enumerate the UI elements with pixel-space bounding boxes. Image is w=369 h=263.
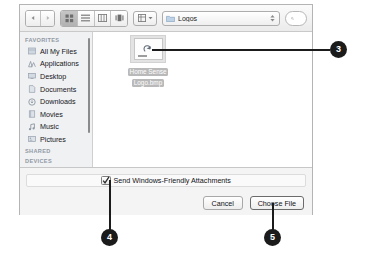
sidebar-item-label: Pictures [40,135,66,144]
checkbox-label: Send Windows-Friendly Attachments [114,176,231,185]
coverflow-view-icon[interactable] [111,11,127,26]
applications-icon [28,60,36,68]
sidebar-item-label: Documents [40,85,76,94]
sidebar-group-header-devices: DEVICES [20,156,92,166]
sidebar-item-label: All My Files [40,47,77,56]
documents-icon [28,85,36,93]
search-input[interactable] [297,15,301,22]
file-name-line-2: Logo.bmp [132,79,164,87]
sidebar-item-pictures[interactable]: Pictures [20,133,92,146]
file-item[interactable]: Home Sense Logo.bmp [122,35,174,87]
file-name-label[interactable]: Home Sense Logo.bmp [128,65,169,87]
file-list-area[interactable]: Home Sense Logo.bmp [93,32,312,167]
desktop-icon [28,72,36,80]
sidebar-item-music[interactable]: Music [20,121,92,134]
sidebar-item-label: Desktop [40,72,66,81]
sidebar-group-header-favorites: FAVORITES [20,35,92,45]
grid-icon [138,14,146,22]
chevron-down-icon [148,16,153,20]
downloads-icon [28,98,36,106]
column-view-icon[interactable] [95,11,112,26]
windows-friendly-option-row[interactable]: Send Windows-Friendly Attachments [26,174,306,187]
sidebar-item-documents[interactable]: Documents [20,83,92,96]
sidebar-item-downloads[interactable]: Downloads [20,95,92,108]
path-label: Logos [178,15,267,22]
file-chooser-dialog: Logos FAVORITES All My Files [19,4,313,215]
back-arrow-icon[interactable] [26,11,41,26]
all-my-files-icon [28,47,36,55]
file-name-line-1: Home Sense [128,68,169,76]
folder-icon [166,15,175,22]
navigation-segmented-control[interactable] [25,10,55,27]
icon-view-icon[interactable] [61,11,78,26]
forward-arrow-icon[interactable] [41,11,55,26]
path-popup-button[interactable]: Logos [162,11,280,26]
updown-arrows-icon [270,15,275,22]
callout-badge-5: 5 [264,229,281,246]
search-field[interactable] [285,11,307,26]
file-browser: FAVORITES All My Files Applications Desk… [20,32,312,167]
movies-icon [28,110,36,118]
sidebar-item-label: Music [40,122,59,131]
sidebar-item-label: Movies [40,110,63,119]
callout-leader-4 [109,180,111,232]
sidebar-item-applications[interactable]: Applications [20,58,92,71]
cancel-button[interactable]: Cancel [203,196,243,210]
pictures-icon [28,135,36,143]
callout-leader-3 [152,49,330,51]
music-note-icon [28,123,36,131]
dialog-accessory-panel: Send Windows-Friendly Attachments Cancel… [20,167,312,215]
callout-badge-3: 3 [330,41,347,58]
sidebar-item-desktop[interactable]: Desktop [20,70,92,83]
sidebar: FAVORITES All My Files Applications Desk… [20,32,93,167]
arrange-by-button[interactable] [133,11,157,26]
sidebar-item-all-my-files[interactable]: All My Files [20,45,92,58]
list-view-icon[interactable] [78,11,95,26]
sidebar-group-header-shared: SHARED [20,146,92,156]
finder-toolbar: Logos [20,5,312,32]
callout-leader-5 [272,203,274,232]
dialog-button-row: Cancel Choose File [203,196,304,210]
search-icon [291,15,294,22]
sidebar-item-movies[interactable]: Movies [20,108,92,121]
sidebar-item-label: Applications [40,59,79,68]
callout-badge-4: 4 [101,229,118,246]
sidebar-scrollbar[interactable] [88,38,91,133]
sidebar-item-label: Downloads [40,97,76,106]
choose-file-button[interactable]: Choose File [250,196,304,210]
view-mode-segmented-control[interactable] [60,10,128,27]
